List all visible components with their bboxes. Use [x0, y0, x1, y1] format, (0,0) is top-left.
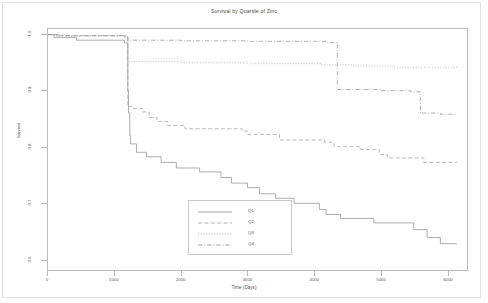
y-tick-label: 0.9 [27, 81, 32, 99]
legend-line-swatch [198, 220, 232, 226]
y-tick-label: 0.8 [27, 137, 32, 155]
survival-curve-q2 [48, 35, 457, 163]
legend-item-q3[interactable]: Q3 [189, 228, 291, 239]
y-axis-label: Survival [16, 101, 21, 161]
chart-title: Survival by Quartile of Zinc [0, 8, 488, 14]
x-tick-label: 1000 [102, 277, 126, 282]
x-tick-mark [314, 271, 315, 276]
x-tick-mark [47, 271, 48, 276]
y-tick-label: 0.7 [27, 194, 32, 212]
legend-item-q2[interactable]: Q2 [189, 217, 291, 228]
legend-item-label: Q1 [248, 209, 254, 213]
x-tick-label: 5000 [369, 277, 393, 282]
legend-line-swatch [198, 242, 232, 248]
x-tick-label: 4000 [302, 277, 326, 282]
x-tick-label: 3000 [235, 277, 259, 282]
x-tick-mark [381, 271, 382, 276]
legend-item-label: Q3 [248, 231, 254, 235]
legend-line-swatch [198, 231, 232, 237]
legend-item-label: Q4 [248, 242, 254, 246]
legend-item-q1[interactable]: Q1 [189, 206, 291, 217]
x-tick-mark [114, 271, 115, 276]
chart-legend[interactable]: Q1Q2Q3Q4 [188, 200, 292, 255]
survival-curve-q4 [48, 35, 457, 115]
x-axis-label: Time (Days) [0, 285, 488, 290]
x-tick-mark [247, 271, 248, 276]
x-tick-label: 0 [35, 277, 59, 282]
legend-item-q4[interactable]: Q4 [189, 239, 291, 250]
x-tick-mark [448, 271, 449, 276]
x-tick-label: 6000 [436, 277, 460, 282]
y-tick-label: 0.6 [27, 250, 32, 268]
x-tick-mark [181, 271, 182, 276]
figure-canvas: Survival by Quartile of Zinc Survival 0.… [0, 0, 488, 303]
x-tick-label: 2000 [169, 277, 193, 282]
survival-curve-q3 [48, 35, 457, 68]
legend-item-label: Q2 [248, 220, 254, 224]
y-tick-label: 1.0 [27, 24, 32, 42]
legend-line-swatch [198, 209, 232, 215]
